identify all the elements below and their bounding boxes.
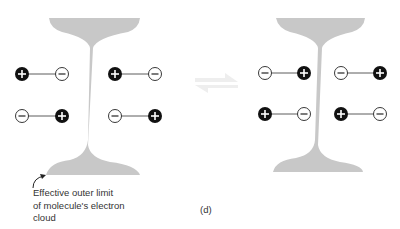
right-electron-cloud	[273, 18, 365, 172]
positive-charge-icon	[55, 109, 69, 123]
left-dipole-bottom-right	[109, 109, 163, 123]
caption-line: Effective outer limit	[33, 187, 173, 200]
left-dipole-top-left	[15, 67, 69, 81]
equilibrium-arrows-icon	[195, 73, 238, 93]
negative-charge-icon	[298, 108, 311, 121]
right-dipole-bottom-right	[334, 107, 387, 121]
right-dipole-top-right	[335, 66, 388, 80]
positive-charge-icon	[297, 66, 311, 80]
caption-line: of molecule's electron	[33, 200, 173, 213]
panel-label: (d)	[200, 204, 212, 215]
left-dipole-bottom-left	[16, 109, 70, 123]
right-dipole-top-left	[259, 66, 312, 80]
diagram-stage: Effective outer limit of molecule's elec…	[0, 0, 400, 229]
positive-charge-icon	[15, 67, 29, 81]
negative-charge-icon	[259, 67, 272, 80]
left-dipole-top-right	[108, 67, 162, 81]
negative-charge-icon	[149, 68, 162, 81]
negative-charge-icon	[335, 67, 348, 80]
positive-charge-icon	[148, 109, 162, 123]
negative-charge-icon	[56, 68, 69, 81]
left-electron-cloud	[46, 18, 140, 175]
electron-cloud-caption: Effective outer limit of molecule's elec…	[33, 187, 173, 225]
caption-line: cloud	[33, 212, 173, 225]
positive-charge-icon	[108, 67, 122, 81]
negative-charge-icon	[16, 110, 29, 123]
negative-charge-icon	[109, 110, 122, 123]
negative-charge-icon	[374, 108, 387, 121]
positive-charge-icon	[373, 66, 387, 80]
positive-charge-icon	[334, 107, 348, 121]
right-dipole-bottom-left	[258, 107, 311, 121]
positive-charge-icon	[258, 107, 272, 121]
